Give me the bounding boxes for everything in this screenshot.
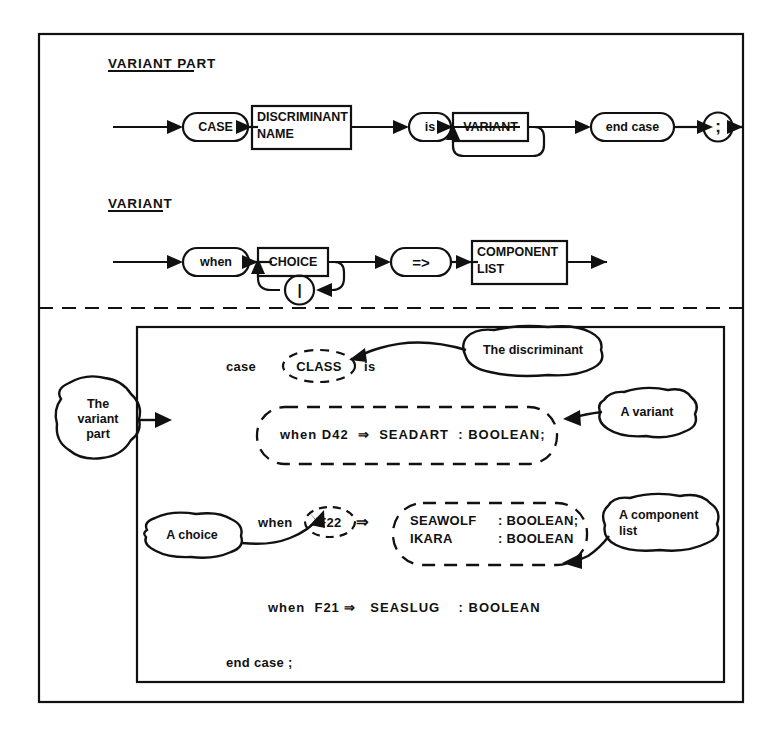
- code-comp-ikara-type: : BOOLEAN: [498, 531, 574, 546]
- code-comp-ikara-name: IKARA: [410, 531, 453, 546]
- node-label-variant: VARIANT: [463, 120, 518, 134]
- example-inner-box: [137, 327, 724, 682]
- code-is-keyword: is: [364, 359, 375, 374]
- callout-label-component-list-line1: A component: [619, 508, 698, 522]
- code-variant-2-arrow: ⇒: [356, 513, 369, 531]
- variant-part-title: VARIANT PART: [108, 56, 216, 71]
- callout-label-variant-part-line3: part: [86, 427, 110, 441]
- node-label-discriminant-line2: NAME: [257, 127, 294, 141]
- code-comp-seawolf-name: SEAWOLF: [410, 513, 476, 528]
- callout-arrow-discriminant: [358, 342, 466, 357]
- code-class-discriminant: CLASS: [296, 359, 342, 374]
- node-label-choice: CHOICE: [269, 255, 318, 269]
- callout-arrowhead-variant-part: [155, 412, 172, 428]
- node-label-is: is: [425, 120, 435, 134]
- rail-arrowheads: [167, 120, 743, 297]
- callout-label-component-list-line2: list: [619, 524, 637, 538]
- node-label-component-list-line1: COMPONENT: [477, 245, 558, 259]
- callout-arrowhead-a-variant: [563, 410, 581, 426]
- code-variant-2-when: when: [258, 515, 292, 530]
- node-label-discriminant-line1: DISCRIMINANT: [257, 110, 348, 124]
- node-label-end-case: end case: [606, 120, 660, 134]
- node-label-semicolon: ;: [715, 117, 721, 137]
- node-label-case: CASE: [198, 120, 233, 134]
- callout-label-a-variant: A variant: [620, 405, 673, 419]
- callout-label-discriminant: The discriminant: [483, 343, 583, 357]
- node-label-component-list-line2: LIST: [477, 262, 504, 276]
- callout-label-variant-part-line1: The: [87, 397, 109, 411]
- code-variant-1: when D42 ⇒ SEADART : BOOLEAN;: [280, 427, 545, 442]
- node-label-when: when: [200, 255, 232, 269]
- callout-arrowhead-component-list: [562, 553, 582, 569]
- code-end-case: end case ;: [226, 655, 293, 670]
- figure-canvas: VARIANT PART CASE DISCRIMINANT NAME is V…: [0, 0, 770, 732]
- callout-label-variant-part-line2: variant: [78, 412, 119, 426]
- node-label-arrow-op: =>: [412, 254, 430, 271]
- node-label-bar: |: [297, 281, 301, 298]
- callout-label-a-choice: A choice: [166, 528, 218, 542]
- code-case-keyword: case: [226, 359, 256, 374]
- diagram-linework: [0, 0, 770, 732]
- callout-bubble-component-list: [603, 494, 718, 551]
- code-variant-2-choice: F22: [318, 515, 341, 530]
- code-comp-seawolf-type: : BOOLEAN;: [498, 513, 578, 528]
- variant-title: VARIANT: [108, 196, 173, 211]
- code-variant-3: when F21 ⇒ SEASLUG : BOOLEAN: [268, 600, 541, 615]
